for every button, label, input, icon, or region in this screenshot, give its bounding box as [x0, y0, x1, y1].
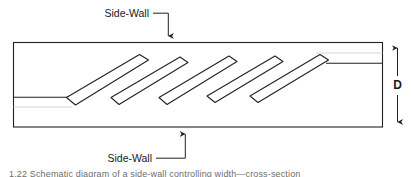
top-side-wall-label: Side-Wall [104, 7, 149, 19]
figure-root: Side-Wall Side-Wall D 1.22 Schematic dia… [0, 0, 411, 177]
top-side-wall-leader [153, 13, 168, 36]
duct-schematic-diagram: Side-Wall Side-Wall D [0, 0, 411, 177]
depth-dimension-group: D [393, 48, 402, 122]
figure-caption-text: 1.22 Schematic diagram of a side-wall co… [9, 170, 300, 177]
depth-dimension-label: D [393, 78, 402, 92]
figure-caption-clipped: 1.22 Schematic diagram of a side-wall co… [0, 170, 411, 177]
bottom-side-wall-leader [156, 134, 185, 158]
bottom-side-wall-label: Side-Wall [107, 152, 152, 164]
